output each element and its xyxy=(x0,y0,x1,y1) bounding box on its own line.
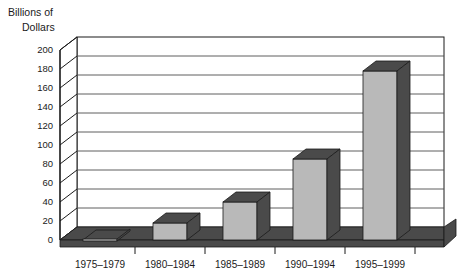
y-tick-label: 120 xyxy=(37,120,53,131)
bar-1995-1999[interactable] xyxy=(363,61,410,240)
bar-1990-1994[interactable] xyxy=(293,149,340,240)
bar-chart: Billions of Dollars xyxy=(0,0,459,277)
y-tick-label: 100 xyxy=(37,139,53,150)
x-tick-label-1985-1989: 1985–1989 xyxy=(215,259,265,270)
x-tick-label-1995-1999: 1995–1999 xyxy=(355,259,405,270)
y-tick-label: 180 xyxy=(37,63,53,74)
y-tick-label: 0 xyxy=(48,234,53,245)
y-tick-label: 140 xyxy=(37,101,53,112)
x-tick-label-1980-1984: 1980–1984 xyxy=(145,259,195,270)
x-tick-label-1990-1994: 1990–1994 xyxy=(285,259,335,270)
chart-svg: Billions of Dollars xyxy=(0,0,459,277)
y-tick-label: 160 xyxy=(37,82,53,93)
y-tick-label: 20 xyxy=(42,215,53,226)
y-tick-label: 200 xyxy=(37,44,53,55)
x-tick-label-1975-1979: 1975–1979 xyxy=(75,259,125,270)
y-tick-label: 60 xyxy=(42,177,53,188)
y-tick-label: 40 xyxy=(42,196,53,207)
y-axis-labels: 200 180 160 140 120 100 80 60 40 20 0 xyxy=(37,44,53,245)
bar-1985-1989[interactable] xyxy=(223,192,270,240)
x-axis-ticks xyxy=(135,247,415,254)
axis-title-line-2: Dollars xyxy=(22,21,55,33)
axis-title-line-1: Billions of xyxy=(8,6,53,18)
y-tick-label: 80 xyxy=(42,158,53,169)
x-axis-labels: 1975–1979 1980–1984 1985–1989 1990–1994 … xyxy=(75,259,405,270)
